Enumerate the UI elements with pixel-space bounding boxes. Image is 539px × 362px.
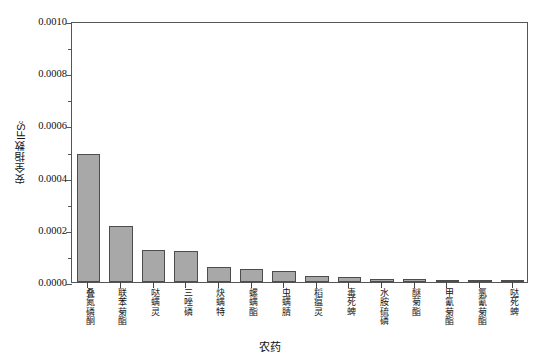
x-axis-title: 农药	[0, 338, 539, 354]
x-tick-label: 三唑磷	[178, 288, 192, 316]
x-tick-label: 炔螨特	[211, 288, 225, 316]
bar	[240, 269, 264, 282]
x-tick-label: 毒死蜱	[341, 288, 355, 316]
y-tick-label: 0.0010	[23, 17, 67, 27]
y-tick-label: 0.0000	[23, 278, 67, 288]
bar-chart-figure: 安全指数IFSc 0.00100.00080.00060.00040.00020…	[0, 0, 539, 362]
x-tick-label: 螺螨酯	[244, 288, 258, 316]
x-tick-label: 哒螨灵	[146, 288, 160, 316]
x-tick-label: 哒死蜱	[505, 288, 519, 316]
plot-area	[71, 22, 528, 283]
x-tick-label: 稻瘟灵	[309, 288, 323, 316]
x-tick-label: 醚菊酯	[407, 288, 421, 316]
x-tick-label: 水胺硫磷	[374, 288, 388, 325]
bar	[109, 226, 133, 282]
bar	[272, 271, 296, 282]
bar	[174, 251, 198, 282]
y-tick-label: 0.0002	[23, 226, 67, 236]
x-tick-label: 叠氮磷酮	[80, 288, 94, 325]
x-axis-tick-labels: 叠氮磷酮联苯菊酯哒螨灵三唑磷炔螨特螺螨酯虫螨腈稻瘟灵毒死蜱水胺硫磷醚菊酯甲氰菊酯…	[71, 288, 528, 334]
y-axis-tick-labels: 0.00100.00080.00060.00040.00020.0000	[20, 22, 67, 283]
bar	[207, 267, 231, 282]
x-tick-label: 虫螨腈	[276, 288, 290, 316]
bar	[142, 250, 166, 282]
y-tick-label: 0.0006	[23, 121, 67, 131]
x-tick-label: 甲氰菊酯	[439, 288, 453, 325]
y-tick-label: 0.0004	[23, 174, 67, 184]
x-tick-label: 氯氰菊酯	[472, 288, 486, 325]
bar	[77, 154, 101, 282]
bar-series	[72, 23, 527, 282]
y-tick-label: 0.0008	[23, 69, 67, 79]
x-tick-label: 联苯菊酯	[113, 288, 127, 325]
